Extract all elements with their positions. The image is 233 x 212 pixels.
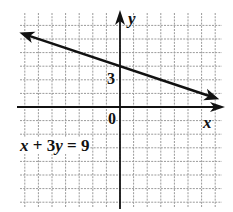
equation-y: y <box>55 136 63 155</box>
coordinate-graph <box>0 0 233 212</box>
equation-eq: = 9 <box>63 136 90 155</box>
origin-label: 0 <box>108 111 116 127</box>
equation-label: x + 3y = 9 <box>19 137 90 154</box>
y-axis-label: y <box>128 10 136 27</box>
equation-plus: + 3 <box>29 136 56 155</box>
y-tick-label-3: 3 <box>107 71 115 87</box>
equation-x: x <box>20 136 29 155</box>
x-axis-label: x <box>203 114 212 131</box>
axes <box>17 10 225 209</box>
